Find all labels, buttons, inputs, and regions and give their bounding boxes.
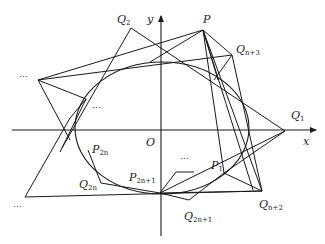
point-label-Q2n: Q2n — [79, 179, 97, 192]
x-axis-label: x — [303, 136, 309, 147]
ellipsis-bottom-left: … — [13, 200, 23, 209]
point-label-P: P — [203, 14, 210, 25]
point-label-Q2n1: Q2n+1 — [184, 211, 212, 224]
point-label-Q2: Q2 — [117, 14, 131, 27]
point-label-Q1: Q1 — [291, 110, 305, 123]
point-label-P1: P1 — [211, 160, 223, 173]
point-label-P2n: P2n — [92, 144, 108, 157]
origin-label: O — [146, 137, 155, 148]
ellipsis-inner-bottom: … — [180, 152, 190, 161]
point-label-P2n1: P2n+1 — [129, 172, 156, 185]
y-axis-label: y — [147, 14, 153, 25]
point-label-Qn2: Qn+2 — [259, 199, 283, 212]
ellipsis-inner-left: … — [92, 101, 102, 110]
point-label-Qn3: Qn+3 — [236, 44, 260, 57]
ellipsis-left: … — [19, 70, 29, 79]
